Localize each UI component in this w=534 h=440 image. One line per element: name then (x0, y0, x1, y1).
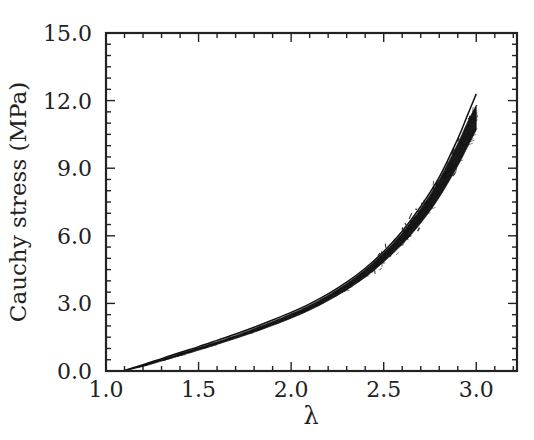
y-axis-label: Cauchy stress (MPa) (5, 82, 31, 322)
x-tick-label: 2.0 (274, 377, 309, 402)
x-axis-label: λ (303, 402, 318, 430)
x-tick-label: 1.5 (181, 377, 216, 402)
y-tick-label: 15.0 (43, 21, 92, 46)
y-tick-label: 9.0 (57, 156, 92, 181)
y-tick-label: 0.0 (57, 359, 92, 384)
chart-figure: 0.03.06.09.012.015.0 1.01.52.02.53.0 Cau… (0, 0, 534, 440)
cauchy-stress-stretch-chart: 0.03.06.09.012.015.0 1.01.52.02.53.0 Cau… (0, 0, 534, 440)
y-tick-label: 3.0 (57, 291, 92, 316)
x-tick-label: 1.0 (89, 377, 124, 402)
y-tick-label: 12.0 (43, 89, 92, 114)
y-tick-label: 6.0 (57, 224, 92, 249)
x-tick-label: 2.5 (366, 377, 401, 402)
x-tick-label: 3.0 (459, 377, 494, 402)
